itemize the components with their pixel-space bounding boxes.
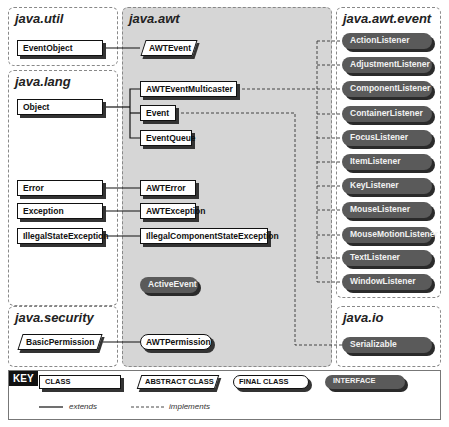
interface-actionlistener[interactable]: ActionListener — [342, 33, 432, 49]
class-awterror[interactable]: AWTError — [140, 180, 196, 196]
legend-key: KEY CLASS ABSTRACT CLASS FINAL CLASS INT… — [8, 370, 441, 420]
class-awtexception[interactable]: AWTException — [140, 203, 196, 219]
interface-focuslistener[interactable]: FocusListener — [342, 130, 432, 146]
interface-serializable[interactable]: Serializable — [342, 337, 432, 353]
class-eventobject[interactable]: EventObject — [17, 40, 103, 56]
interface-componentlistener[interactable]: ComponentListener — [342, 81, 432, 97]
final-class-awtpermission[interactable]: AWTPermission — [140, 334, 212, 350]
interface-activeevent[interactable]: ActiveEvent — [140, 277, 198, 293]
interface-mouselistener[interactable]: MouseListener — [342, 202, 432, 218]
class-eventqueue[interactable]: EventQueue — [140, 130, 192, 146]
class-event[interactable]: Event — [140, 105, 176, 121]
interface-containerlistener[interactable]: ContainerListener — [342, 106, 432, 122]
class-object[interactable]: Object — [17, 99, 103, 115]
abstract-class-awtevent[interactable]: AWTEvent — [140, 40, 197, 56]
interface-keylistener[interactable]: KeyListener — [342, 178, 432, 194]
abstract-class-basicpermission[interactable]: BasicPermission — [17, 334, 102, 350]
interface-adjustmentlistener[interactable]: AdjustmentListener — [342, 57, 432, 73]
key-extends-label: extends — [69, 402, 97, 411]
class-exception[interactable]: Exception — [17, 203, 103, 219]
class-awteventmulticaster[interactable]: AWTEventMulticaster — [140, 81, 237, 97]
key-implements-label: implements — [169, 402, 210, 411]
interface-windowlistener[interactable]: WindowListener — [342, 274, 432, 290]
class-illegalstateexception[interactable]: IllegalStateException — [17, 228, 103, 244]
class-error[interactable]: Error — [17, 180, 103, 196]
interface-itemlistener[interactable]: ItemListener — [342, 154, 432, 170]
interface-textlistener[interactable]: TextListener — [342, 250, 432, 266]
key-line-samples — [9, 371, 442, 421]
class-illegalcomponentstateexception[interactable]: IllegalComponentStateException — [140, 228, 268, 244]
interface-mousemotionlistener[interactable]: MouseMotionListener — [342, 227, 432, 243]
